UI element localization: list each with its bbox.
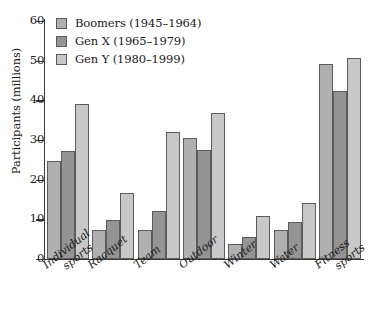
y-axis-tick-label: 50: [10, 55, 44, 67]
legend-label: Boomers (1945–1964): [75, 16, 201, 30]
bar: [183, 138, 197, 259]
bar: [319, 64, 333, 259]
legend-item: Boomers (1945–1964): [56, 14, 201, 32]
y-axis-tick-label: 0: [10, 253, 44, 265]
legend-item: Gen Y (1980–1999): [56, 50, 201, 68]
bar: [47, 161, 61, 259]
bar: [302, 203, 316, 259]
legend-item: Gen X (1965–1979): [56, 32, 201, 50]
y-axis-tick-label: 10: [10, 213, 44, 225]
legend-swatch: [56, 54, 67, 65]
y-axis-tick-label: 60: [10, 15, 44, 27]
bar: [347, 58, 361, 259]
bar-group: [319, 21, 361, 259]
bar: [166, 132, 180, 259]
legend-label: Gen Y (1980–1999): [75, 52, 185, 66]
bar: [333, 91, 347, 259]
bar-chart: Participants (millions) 0102030405060 In…: [0, 0, 377, 316]
legend-swatch: [56, 18, 67, 29]
legend-label: Gen X (1965–1979): [75, 34, 185, 48]
chart-legend: Boomers (1945–1964)Gen X (1965–1979)Gen …: [56, 14, 201, 68]
bar-group: [274, 21, 316, 259]
bar-group: [228, 21, 270, 259]
bar: [256, 216, 270, 259]
y-axis-tick-label: 20: [10, 174, 44, 186]
legend-swatch: [56, 36, 67, 47]
y-axis-tick-label: 40: [10, 94, 44, 106]
y-axis-tick-label: 30: [10, 134, 44, 146]
